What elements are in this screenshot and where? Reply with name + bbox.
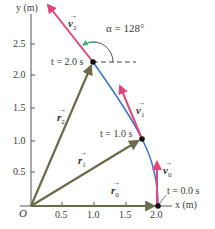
vector-arrow-icon: → [79, 149, 87, 157]
point-t2 [90, 59, 96, 65]
x-tick-label: 0.5 [55, 210, 68, 220]
y-tick-label: 1.0 [13, 136, 26, 146]
vector-arrow-icon: → [137, 99, 145, 107]
x-axis-label: x (m) [175, 200, 197, 210]
t0-leader [159, 195, 166, 204]
vector-label-r2: →r2 [57, 112, 65, 126]
vector-arrow-icon: → [69, 12, 77, 20]
position-vector-r2 [31, 66, 91, 206]
time-label-t0: t = 0.0 s [167, 186, 199, 196]
vector-label-r1: →r1 [78, 155, 86, 169]
point-t0 [155, 203, 161, 209]
vector-arrow-icon: → [58, 106, 66, 114]
y-tick-label: 1.5 [13, 103, 26, 113]
time-label-t2: t = 2.0 s [51, 57, 83, 67]
x-tick-label: 2.0 [150, 210, 163, 220]
y-tick-label: 0.5 [13, 167, 26, 177]
x-tick-label: 1.0 [87, 210, 100, 220]
vector-label-v0: →v0 [163, 165, 171, 179]
vector-arrow-icon: → [164, 159, 172, 167]
x-tick-label: 1.5 [119, 210, 132, 220]
y-tick-label: 2.5 [13, 39, 26, 49]
vector-label-r0: →r0 [111, 185, 119, 199]
time-label-t1: t = 1.0 s [100, 129, 132, 139]
vector-label-v1: →v1 [136, 105, 144, 119]
point-t1 [139, 136, 145, 142]
vector-label-v2: →v2 [68, 18, 76, 32]
angle-arc-arrow [83, 42, 96, 45]
vector-arrow-icon: → [112, 179, 120, 187]
angle-label: α = 128° [106, 23, 144, 34]
origin-label: O [19, 208, 27, 219]
y-axis-label: y (m) [16, 3, 38, 13]
y-tick-label: 2.0 [13, 70, 26, 80]
